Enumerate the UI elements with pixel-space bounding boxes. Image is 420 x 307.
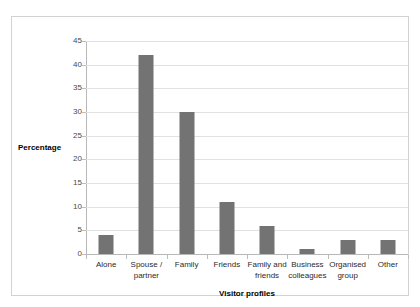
cropped-title-remnant: Figure: Visitor profiles by group (0, 0, 420, 10)
y-tick-label: 40 (52, 61, 82, 69)
bar-slot (368, 41, 408, 254)
bar[interactable] (340, 240, 355, 254)
y-tick-label: 20 (52, 155, 82, 163)
bar[interactable] (260, 226, 275, 254)
x-tick-label: Other (364, 260, 412, 271)
bar[interactable] (219, 202, 234, 254)
y-tick-label: 15 (52, 179, 82, 187)
bar[interactable] (300, 249, 315, 254)
x-tick-mark (247, 255, 248, 259)
bar[interactable] (99, 235, 114, 254)
y-tick-mark (82, 159, 86, 160)
x-tick-mark (368, 255, 369, 259)
y-tick-label: 0 (52, 250, 82, 258)
x-tick-mark (207, 255, 208, 259)
y-tick-mark (82, 88, 86, 89)
bar-slot (167, 41, 207, 254)
x-tick-mark (86, 255, 87, 259)
y-tick-mark (82, 207, 86, 208)
x-tick-mark (328, 255, 329, 259)
bar-slot (328, 41, 368, 254)
x-tick-mark (408, 255, 409, 259)
y-tick-mark (82, 112, 86, 113)
bar-slot (86, 41, 126, 254)
y-tick-label: 10 (52, 203, 82, 211)
y-tick-label: 30 (52, 108, 82, 116)
x-axis-title: Visitor profiles (86, 289, 408, 298)
x-tick-mark (287, 255, 288, 259)
bar-slot (207, 41, 247, 254)
x-tick-mark (167, 255, 168, 259)
plot-area (86, 41, 408, 254)
bar-slot (287, 41, 327, 254)
bar[interactable] (179, 112, 194, 254)
y-tick-mark (82, 230, 86, 231)
y-tick-mark (82, 65, 86, 66)
chart-frame: 051015202530354045 Percentage Visitor pr… (11, 16, 409, 296)
y-tick-label: 25 (52, 132, 82, 140)
y-tick-mark (82, 136, 86, 137)
y-tick-label: 5 (52, 226, 82, 234)
y-tick-label: 45 (52, 37, 82, 45)
x-tick-mark (126, 255, 127, 259)
bar[interactable] (380, 240, 395, 254)
bar-slot (126, 41, 166, 254)
bar[interactable] (139, 55, 154, 254)
y-axis-title: Percentage (18, 143, 80, 152)
y-tick-mark (82, 183, 86, 184)
y-tick-label: 35 (52, 84, 82, 92)
bar-slot (247, 41, 287, 254)
y-tick-mark (82, 41, 86, 42)
